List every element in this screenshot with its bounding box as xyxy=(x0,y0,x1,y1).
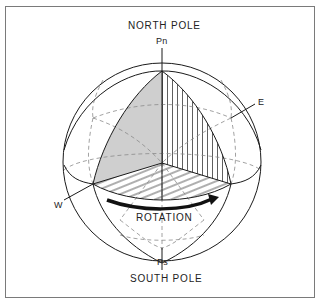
south-pole-label: SOUTH POLE xyxy=(130,273,202,284)
west-label: W xyxy=(54,200,63,210)
ps-label: Ps xyxy=(157,257,168,267)
east-label: E xyxy=(258,97,264,107)
north-pole-label: NORTH POLE xyxy=(128,20,201,31)
pn-label: Pn xyxy=(156,36,168,46)
west-leader xyxy=(64,184,93,200)
east-leader xyxy=(231,104,255,118)
rotation-label: ROTATION xyxy=(136,212,193,223)
